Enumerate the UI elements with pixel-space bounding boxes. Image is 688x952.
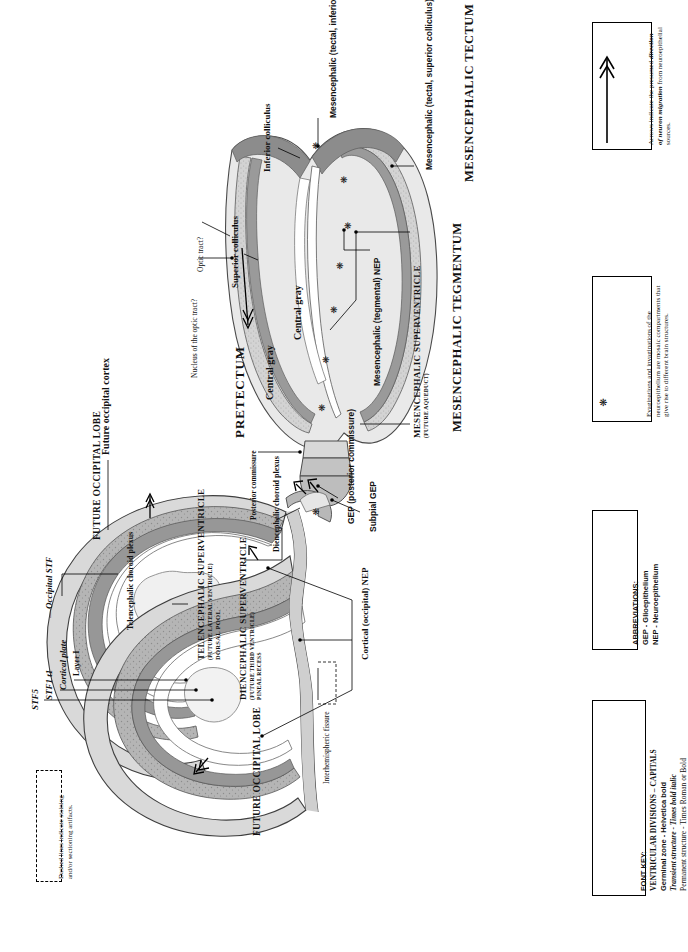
abbreviation-nep: NEP - Neuroepithelium <box>651 564 661 645</box>
label-cortical-plate: Cortical plate <box>58 640 68 690</box>
gep-pc-text: GEP (posterior commissure) <box>346 409 356 524</box>
inferior-colliculus-text: Inferior colliculus <box>262 103 272 172</box>
label-telencephalic-choroid-plexus: Telencephalic choroid plexus <box>126 532 135 630</box>
mesencephalic-tectum-text: MESENCEPHALIC TECTUM <box>462 4 477 182</box>
arrows-note-l3b: from <box>656 71 664 86</box>
font-key-text: FONT KEY: VENTRICULAR DIVISIONS – CAPITA… <box>639 749 688 891</box>
asterisk-note-l2: neuroepithelium are mosaic compartments <box>654 298 662 417</box>
telencephalon-group <box>47 491 332 837</box>
abbreviations-title: ABBREVIATIONS: <box>631 564 641 645</box>
superior-colliculus-text: Superior colliculus <box>230 216 240 288</box>
dsv-line2: (FUTURE THIRD VENTRICLE) <box>249 537 256 700</box>
label-inferior-colliculus: Inferior colliculus <box>262 103 272 172</box>
label-mesencephalic-tectum: MESENCEPHALIC TECTUM <box>462 4 477 182</box>
label-layer-i: Layer I <box>72 651 81 676</box>
font-key-item-germinal: Germinal zone - Helvetica bold <box>659 749 669 891</box>
asterisk-marker: ❋ <box>312 508 320 517</box>
dashed-lines-note-box: Dashed lines indicate staining and/or se… <box>36 770 62 882</box>
label-central-gray-1: Central gray <box>264 345 275 400</box>
label-telencephalic-superventricle: TELENCEPHALIC SUPERVENTRICLE (FUTURE LAT… <box>196 489 221 660</box>
arrows-note-box: Arrows indicate the presumed direction o… <box>592 22 652 150</box>
label-central-gray-2: Central gray <box>292 285 303 340</box>
label-future-occipital-lobe-lower: FUTURE OCCIPITAL LOBE <box>252 707 263 836</box>
dashed-note-l1: Dashed lines indicate staining <box>57 795 66 879</box>
label-pretectum: PRETECTUM <box>232 346 248 438</box>
posterior-commissure-text: Posterior commissure <box>250 451 259 521</box>
asterisk-marker: ❋ <box>312 142 320 151</box>
font-key-item-permanent: Permanent structure - Times Roman or Bol… <box>679 749 688 891</box>
dashed-lines-note-text: Dashed lines indicate staining and/or se… <box>57 795 75 879</box>
asterisk-icon: ❋ <box>599 397 607 408</box>
label-subpial-gep: Subpial GEP <box>368 481 378 532</box>
label-mesencephalic-tectal-superior-nep: Mesencephalic (tectal, superior collicul… <box>424 0 434 170</box>
font-key-item-transient: Transient structure - Times bold italic <box>669 749 679 891</box>
mt-sup-nep-text: Mesencephalic (tectal, superior collicul… <box>424 0 434 170</box>
arrows-note-l3a: neuron migration <box>656 86 664 137</box>
double-chevron-arrow-icon <box>593 23 653 151</box>
label-gep-posterior-commissure: GEP (posterior commissure) <box>346 409 356 524</box>
label-diencephalic-superventricle: DIENCEPHALIC SUPERVENTRICLE (FUTURE THIR… <box>238 537 262 700</box>
label-mesencephalic-tegmental-nep: Mesencephalic (tegmental) NEP <box>372 258 382 386</box>
msv-line2: (FUTURE AQUEDUCT) <box>423 265 430 438</box>
label-nucleus-optic-tract: Nucleus of the optic tract? <box>190 299 199 378</box>
label-mesencephalic-tegmentum: MESENCEPHALIC TEGMENTUM <box>450 222 465 432</box>
label-mesencephalic-tectal-inferior-nep: Mesencephalic (tectal, inferior collicul… <box>328 0 338 118</box>
font-key-item-ventricular: VENTRICULAR DIVISIONS – CAPITALS <box>649 749 659 891</box>
diencephalic-choroid-plexus-text: Diencephalic choroid plexus <box>272 456 281 552</box>
future-occipital-lobe-upper-text: FUTURE OCCIPITAL LOBE <box>92 411 103 540</box>
dashed-note-l2: and/or sectioning artifacts. <box>66 795 75 879</box>
font-key-title: FONT KEY: <box>639 749 649 891</box>
label-optic-tract: Optic tract? <box>196 237 205 272</box>
asterisk-marker: ❋ <box>340 176 348 185</box>
asterisk-note-box: Evaginations and invaginations of the ne… <box>592 276 652 422</box>
label-occipital-stf-text: Occipital STF <box>44 557 54 609</box>
telencephalic-choroid-plexus-text: Telencephalic choroid plexus <box>126 532 135 630</box>
label-stf5: STF5 <box>30 689 40 710</box>
asterisk-marker: ❋ <box>318 404 326 413</box>
label-occipital-stf: —Occipital STF <box>44 557 54 618</box>
label-diencephalic-choroid-plexus: Diencephalic choroid plexus <box>272 456 281 552</box>
dashed-artifact-lines <box>318 662 336 704</box>
asterisk-note-text: Evaginations and invaginations of the ne… <box>645 283 671 417</box>
font-key-box: FONT KEY: VENTRICULAR DIVISIONS – CAPITA… <box>592 700 646 896</box>
abbreviations-box: ABBREVIATIONS: GEP - Glioepithelium NEP … <box>592 510 638 650</box>
label-stf1-t1: STF1 t1 <box>44 670 54 700</box>
label-superior-colliculus: Superior colliculus <box>230 216 240 288</box>
msv-line1: MESENCEPHALIC SUPERVENTRICLE <box>412 265 423 438</box>
dsv-line1: DIENCEPHALIC SUPERVENTRICLE <box>238 537 249 700</box>
mt-inf-nep-text: Mesencephalic (tectal, inferior collicul… <box>328 0 338 118</box>
label-mesencephalic-superventricle: MESENCEPHALIC SUPERVENTRICLE (FUTURE AQU… <box>412 265 430 438</box>
mes-teg-nep-text: Mesencephalic (tegmental) NEP <box>372 258 382 386</box>
label-posterior-commissure: Posterior commissure <box>250 451 259 521</box>
asterisk-marker: ❋ <box>336 262 344 271</box>
label-cortical-occipital-nep: Cortical (occipital) NEP <box>360 568 370 660</box>
tsv-line2: (FUTURE LATERAL VENTRICLE) <box>207 489 214 660</box>
asterisk-marker: ❋ <box>322 356 330 365</box>
label-future-occipital-lobe-upper: FUTURE OCCIPITAL LOBE <box>92 411 103 540</box>
abbreviations-text: ABBREVIATIONS: GEP - Glioepithelium NEP … <box>631 564 660 645</box>
dsv-line3: PINEAL RECESS <box>256 537 263 700</box>
asterisk-note-l1: Evaginations and invaginations of the <box>645 311 653 417</box>
tsv-line1: TELENCEPHALIC SUPERVENTRICLE <box>196 489 207 660</box>
asterisk-marker: ❋ <box>330 306 338 315</box>
tsv-line3: DORSAL POOL <box>214 489 222 660</box>
abbreviation-gep: GEP - Glioepithelium <box>641 564 651 645</box>
asterisk-marker: ❋ <box>344 222 352 231</box>
future-occipital-lobe-lower-text: FUTURE OCCIPITAL LOBE <box>252 707 263 836</box>
label-interhemispheric-fissure: Interhemispheric fissure <box>322 711 331 784</box>
mesencephalic-tegmentum-text: MESENCEPHALIC TEGMENTUM <box>450 222 465 432</box>
